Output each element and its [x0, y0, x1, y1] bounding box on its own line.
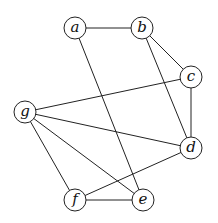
node-f: f [64, 189, 86, 211]
node-label: e [139, 190, 148, 208]
edge-b-d [142, 28, 191, 148]
node-label: a [71, 18, 80, 36]
nodes-layer: abcdefg [14, 17, 202, 211]
graph-diagram: abcdefg [0, 0, 218, 223]
node-e: e [132, 189, 154, 211]
node-c: c [180, 66, 202, 88]
node-g: g [14, 101, 36, 123]
node-label: g [20, 102, 30, 120]
node-b: b [131, 17, 153, 39]
edge-c-g [25, 77, 191, 112]
node-d: d [180, 137, 202, 159]
node-a: a [64, 17, 86, 39]
node-label: d [186, 138, 196, 156]
node-label: c [187, 67, 196, 85]
edges-layer [25, 28, 191, 200]
edge-g-f [25, 112, 75, 200]
node-label: b [137, 18, 147, 36]
